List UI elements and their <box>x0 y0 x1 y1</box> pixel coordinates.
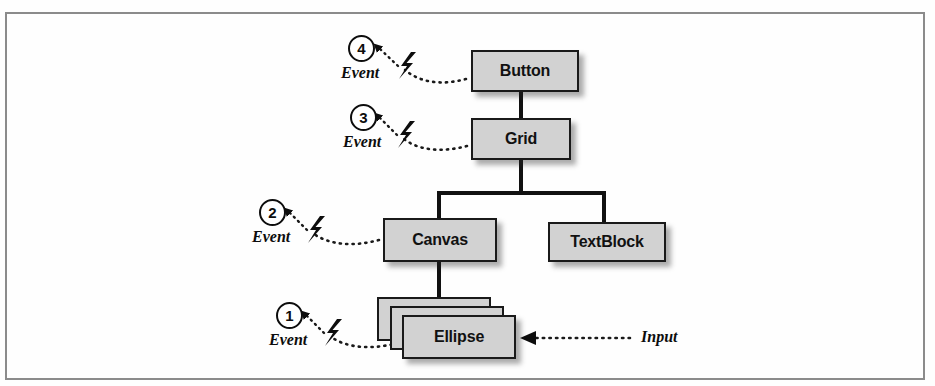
event-arrow-tail-1 <box>306 315 324 333</box>
node-button-label: Button <box>500 62 550 80</box>
lightning-bolt-icon-3 <box>398 121 415 148</box>
event-arrow-tail-3 <box>379 117 397 135</box>
input-arrow <box>520 331 630 345</box>
event-arrow-2 <box>314 234 379 244</box>
node-textblock-label: TextBlock <box>570 233 643 251</box>
event-label-2: Event <box>252 228 290 246</box>
step-marker-2-number: 2 <box>268 205 276 220</box>
step-marker-2[interactable]: 2 <box>259 199 286 226</box>
step-marker-3-number: 3 <box>359 110 367 125</box>
input-label: Input <box>641 328 677 346</box>
node-grid-label: Grid <box>505 130 537 148</box>
event-label-4: Event <box>341 64 379 82</box>
step-marker-4-number: 4 <box>357 41 365 56</box>
event-arrow-3 <box>404 139 467 150</box>
step-marker-1-number: 1 <box>285 308 293 323</box>
input-arrowhead <box>520 331 536 345</box>
lightning-bolt-icon-4 <box>399 52 416 79</box>
event-arrow-4 <box>405 70 466 82</box>
node-ellipse[interactable]: Ellipse <box>402 315 516 359</box>
node-textblock[interactable]: TextBlock <box>548 222 666 262</box>
event-label-1: Event <box>269 331 307 349</box>
step-marker-1[interactable]: 1 <box>276 302 303 329</box>
node-button[interactable]: Button <box>471 50 579 92</box>
step-marker-4[interactable]: 4 <box>348 35 375 62</box>
node-ellipse-label: Ellipse <box>434 328 484 346</box>
event-arrow-tail-2 <box>289 212 307 230</box>
node-canvas-label: Canvas <box>412 231 468 249</box>
node-grid[interactable]: Grid <box>471 118 571 160</box>
node-canvas[interactable]: Canvas <box>383 218 497 262</box>
event-arrow-tail-4 <box>379 48 398 66</box>
step-marker-3[interactable]: 3 <box>350 104 377 131</box>
event-label-3: Event <box>343 133 381 151</box>
event-arrow-tails <box>289 48 398 333</box>
event-routing-diagram: Button Grid Canvas TextBlock Ellipse 4 E… <box>0 0 935 386</box>
